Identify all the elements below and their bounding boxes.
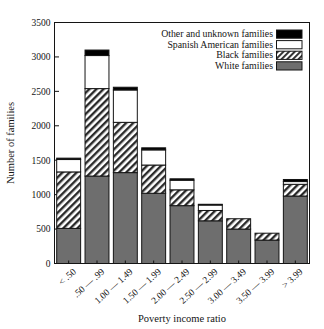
legend-label: Other and unknown families (161, 28, 273, 39)
y-tick-label: 0 (46, 259, 51, 269)
bar-segment (85, 50, 109, 56)
bar-segment (85, 89, 109, 176)
legend-swatch (277, 30, 303, 38)
bars-group (57, 50, 308, 263)
bar-segment (57, 172, 81, 228)
bar-segment (85, 176, 109, 263)
bar-segment (57, 228, 81, 263)
bar-segment (255, 233, 279, 240)
chart-container: 0500100015002000250030003500 < .50.50 — … (0, 0, 324, 329)
bar-segment (142, 165, 166, 193)
bar-segment (227, 229, 251, 263)
y-tick-label: 3000 (32, 52, 51, 62)
bar-segment (57, 160, 81, 172)
y-tick-label: 2000 (32, 121, 51, 131)
bar-segment (113, 90, 137, 122)
x-axis: < .50.50 — .991.00 — 1.491.50 — 1.992.00… (57, 261, 305, 306)
bar-segment (227, 219, 251, 229)
bar-segment (142, 193, 166, 263)
bar-segment (198, 210, 222, 220)
bar-segment (142, 150, 166, 165)
legend-label: Spanish American families (167, 39, 273, 50)
x-tick-label: > 3.99 (280, 266, 305, 290)
bar-segment (198, 221, 222, 264)
bar-segment (113, 87, 137, 90)
y-tick-label: 2500 (32, 87, 51, 97)
x-tick-label: < .50 (57, 266, 78, 287)
bar-segment (170, 179, 194, 180)
bar-segment (57, 158, 81, 159)
bar-segment (170, 206, 194, 264)
bar-segment (113, 173, 137, 264)
bar-segment (198, 205, 222, 211)
bar-segment (113, 122, 137, 172)
bar-segment (283, 184, 307, 196)
bar-segment (142, 148, 166, 150)
y-tick-label: 1000 (32, 190, 51, 200)
y-tick-label: 500 (36, 224, 51, 234)
y-tick-label: 1500 (32, 156, 51, 166)
legend-label: White families (215, 60, 273, 71)
bar-segment (283, 196, 307, 263)
legend-swatch (277, 51, 303, 59)
x-axis-title: Poverty income ratio (138, 313, 226, 324)
bar-segment (85, 56, 109, 89)
legend-swatch (277, 41, 303, 49)
stacked-bar-chart: 0500100015002000250030003500 < .50.50 — … (0, 0, 324, 329)
bar-segment (255, 240, 279, 263)
legend-label: Black families (216, 49, 273, 60)
y-axis-title: Number of families (5, 102, 16, 184)
chart-legend: Other and unknown familiesSpanish Americ… (161, 28, 302, 71)
y-tick-label: 3500 (32, 18, 51, 28)
legend-swatch (277, 62, 303, 70)
bar-segment (170, 180, 194, 190)
bar-segment (283, 179, 307, 181)
bar-segment (170, 190, 194, 206)
bar-segment (198, 204, 222, 205)
